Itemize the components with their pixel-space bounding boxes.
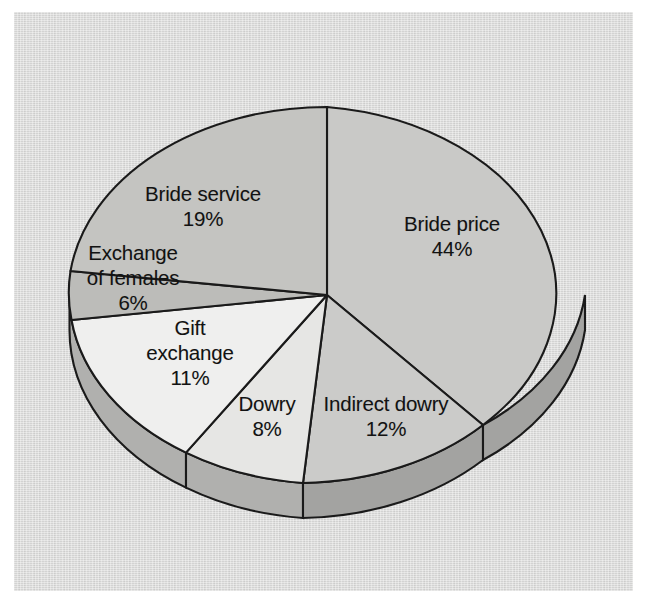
slice-label-exchange-of-females: Exchange of females 6%	[87, 240, 180, 315]
slice-label-dowry-name: Dowry	[238, 391, 295, 416]
slice-label-gift-exchange-name-line1: Gift exchange	[142, 315, 238, 365]
slice-label-gift-exchange: Gift exchange 11%	[142, 315, 238, 390]
slice-label-dowry-value: 8%	[238, 416, 295, 441]
slice-label-exchange-of-females-line1: Exchange	[87, 240, 180, 265]
slice-label-gift-exchange-value: 11%	[142, 365, 238, 390]
slice-label-indirect-dowry-value: 12%	[324, 416, 449, 441]
slice-label-dowry: Dowry 8%	[238, 391, 295, 441]
slice-label-bride-service-value: 19%	[145, 206, 261, 231]
slice-label-bride-service: Bride service 19%	[145, 181, 261, 231]
slice-label-bride-price-name: Bride price	[404, 211, 500, 236]
slice-label-exchange-of-females-value: 6%	[87, 290, 180, 315]
slice-label-indirect-dowry-name: Indirect dowry	[324, 391, 449, 416]
slice-label-indirect-dowry: Indirect dowry 12%	[324, 391, 449, 441]
pie-chart-figure: Bride price 44% Indirect dowry 12% Dowry…	[0, 0, 647, 604]
slice-label-exchange-of-females-line2: of females	[87, 265, 180, 290]
slice-label-bride-price-value: 44%	[404, 236, 500, 261]
slice-label-bride-service-name: Bride service	[145, 181, 261, 206]
slice-label-bride-price: Bride price 44%	[404, 211, 500, 261]
